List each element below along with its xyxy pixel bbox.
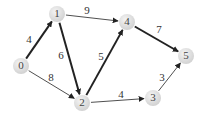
- node-4: 4: [119, 14, 135, 30]
- edge-labels-layer: 48965473: [26, 4, 165, 100]
- graph-canvas: 48965473 012345: [0, 0, 203, 118]
- node-label: 3: [150, 91, 156, 103]
- edge-weight-label: 3: [159, 71, 165, 83]
- node-1: 1: [49, 6, 65, 22]
- edge-1-4: [66, 15, 118, 21]
- weighted-directed-graph: 48965473 012345: [0, 0, 203, 118]
- node-label: 5: [183, 49, 189, 61]
- node-label: 1: [54, 7, 60, 19]
- edge-weight-label: 6: [58, 49, 64, 61]
- node-0: 0: [13, 58, 29, 74]
- edge-weight-label: 4: [26, 33, 32, 45]
- node-5: 5: [178, 48, 194, 64]
- edge-weight-label: 5: [98, 50, 104, 62]
- node-3: 3: [145, 90, 161, 106]
- node-label: 2: [79, 96, 85, 108]
- node-label: 4: [124, 15, 130, 27]
- edge-weight-label: 9: [84, 4, 90, 16]
- node-label: 0: [18, 59, 24, 71]
- edge-weight-label: 4: [118, 88, 124, 100]
- edge-weight-label: 8: [48, 71, 54, 83]
- edge-weight-label: 7: [156, 23, 162, 35]
- edge-2-4: [86, 30, 122, 95]
- node-2: 2: [74, 95, 90, 111]
